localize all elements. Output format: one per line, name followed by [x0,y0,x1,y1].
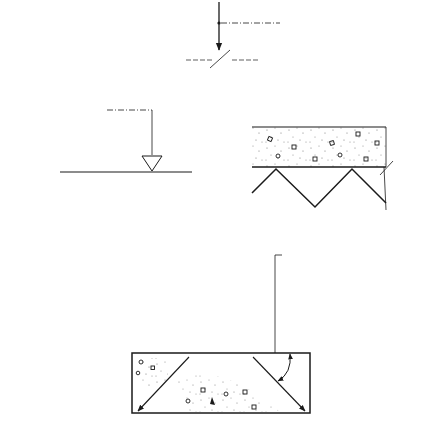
angle-note-leader [273,255,282,366]
concrete-floor-slab [252,127,393,210]
top-load-arrow [217,2,280,50]
ground-level-datum-marker [107,110,162,171]
void-zigzag-break-line [252,169,386,207]
wall-top-break-line [186,50,258,68]
foundation-section-diagram [0,0,441,448]
mass-concrete-foundation [132,353,310,413]
